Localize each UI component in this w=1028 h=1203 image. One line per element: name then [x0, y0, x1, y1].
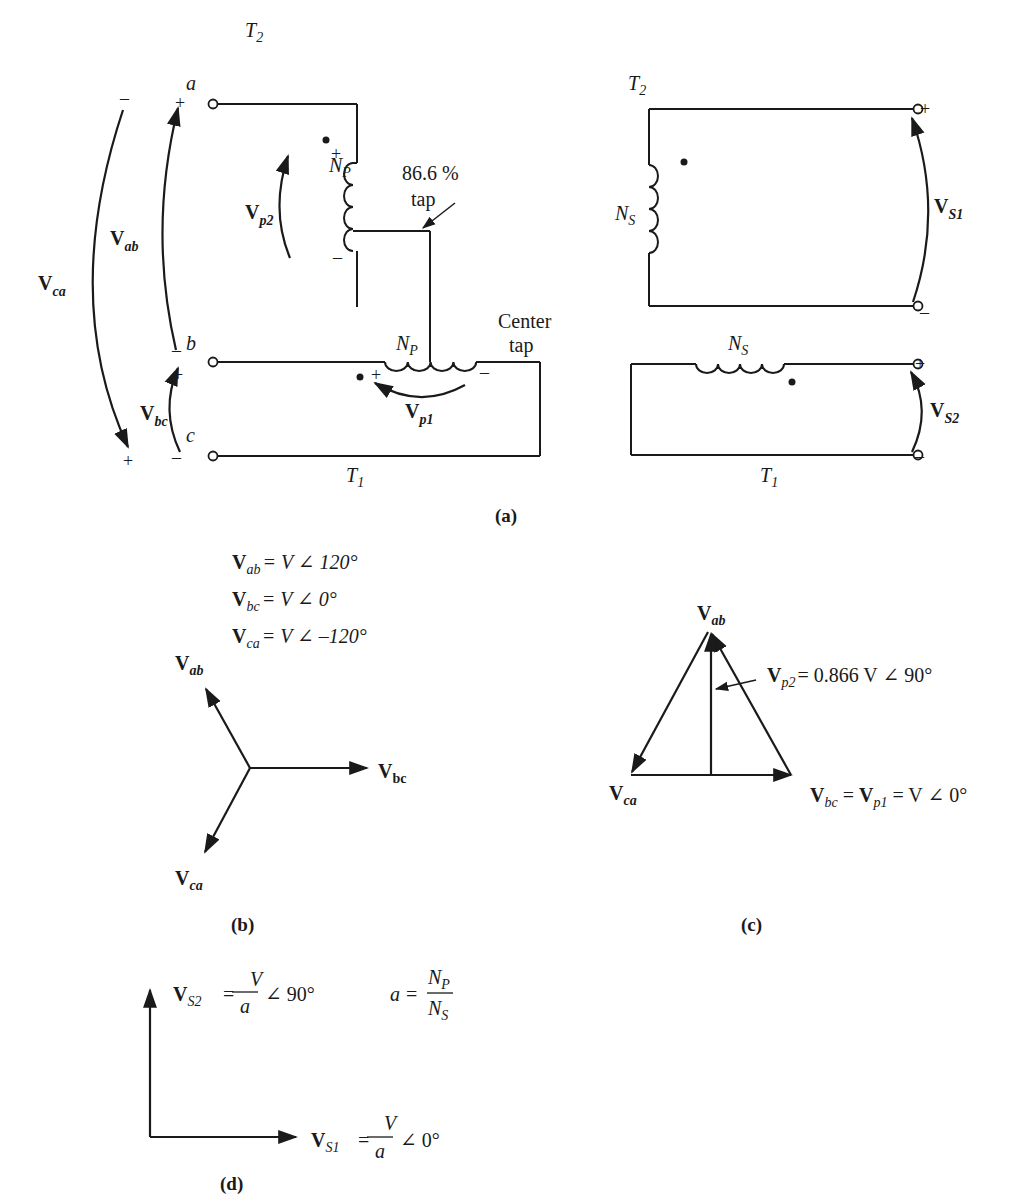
- plus-sign: +: [123, 451, 133, 471]
- fraction-numerator: V: [384, 1112, 399, 1134]
- plus-sign: +: [173, 365, 183, 385]
- vp2-pointer-arrow: [716, 680, 756, 689]
- phasor-vca: [205, 768, 250, 852]
- phasor-vab-label: Vab: [175, 652, 203, 678]
- winding-ns-top-label: NS: [614, 202, 635, 228]
- vp2-label: Vp2: [245, 201, 273, 228]
- figure-canvas: T2 a 86.6 % tap NP + – Vp2 b NP Center t…: [0, 0, 1028, 1203]
- vp2-arrow: [279, 156, 290, 258]
- phasor-vbc-label: Vbc: [378, 760, 406, 786]
- coil-np-t1: [385, 362, 476, 371]
- panel-a-right-circuit: T2 NS + – VS1 NS + – VS2 T1: [614, 72, 963, 490]
- plus-sign: +: [371, 365, 381, 385]
- phasor-vca-label: Vca: [175, 867, 203, 893]
- minus-sign: –: [119, 88, 130, 108]
- angle-value: ∠ 0°: [400, 1129, 440, 1151]
- vs2-label: VS2: [173, 983, 201, 1009]
- caption-a: (a): [495, 505, 517, 527]
- ratio-lhs: a: [390, 983, 400, 1005]
- vs1-label: VS1: [934, 195, 963, 222]
- vca-label: Vca: [609, 782, 637, 808]
- center-tap-label-line2: tap: [509, 334, 533, 357]
- plus-sign: +: [331, 144, 341, 164]
- equation-vbc: Vbc= V ∠ 0°: [232, 588, 337, 614]
- vbc-label: Vbc: [140, 402, 168, 429]
- transformer-t1-label: T1: [346, 464, 364, 490]
- angle-value: ∠ 90°: [265, 983, 315, 1005]
- phasor-vca: [632, 632, 708, 772]
- panel-d-phasors: VS2 = V a ∠ 90° a = NP NS VS1 = V a ∠ 0°: [150, 966, 453, 1162]
- panel-c-phasors: Vab Vp2= 0.866 V ∠ 90° Vca Vbc = Vp1 = V…: [609, 602, 967, 810]
- minus-sign: –: [332, 247, 343, 267]
- polarity-dot: [681, 159, 688, 166]
- ratio-denominator: NS: [427, 997, 448, 1023]
- center-tap-label-line1: Center: [498, 310, 552, 332]
- equals-sign: =: [223, 983, 234, 1005]
- minus-sign: –: [919, 302, 930, 322]
- vs2-arrow: [911, 372, 922, 452]
- plus-sign: +: [915, 354, 925, 374]
- minus-sign: –: [479, 362, 490, 382]
- fraction-numerator: V: [250, 968, 265, 990]
- terminal-b-label: b: [186, 332, 196, 354]
- apex-vab-label: Vab: [697, 602, 725, 628]
- equals-sign: =: [358, 1129, 369, 1151]
- equation-vca: Vca= V ∠ –120°: [232, 625, 367, 651]
- vs1-arrow: [912, 118, 928, 302]
- caption-b: (b): [231, 914, 254, 936]
- vp2-equation: Vp2= 0.866 V ∠ 90°: [767, 664, 932, 690]
- vbc-vp1-equation: Vbc = Vp1 = V ∠ 0°: [810, 784, 967, 810]
- terminal-a-label: a: [186, 72, 196, 94]
- plus-sign: +: [175, 93, 185, 113]
- transformer-t1-label: T1: [760, 464, 778, 490]
- panel-a-left-circuit: T2 a 86.6 % tap NP + – Vp2 b NP Center t…: [38, 19, 552, 490]
- equation-vab: Vab= V ∠ 120°: [232, 551, 358, 577]
- transformer-t2-label: T2: [628, 72, 646, 98]
- coil-ns-t1: [696, 364, 784, 373]
- vp1-label: Vp1: [405, 400, 433, 427]
- vab-label: Vab: [110, 227, 138, 254]
- vca-arrow: [93, 110, 128, 447]
- terminal-c-label: c: [186, 424, 195, 446]
- caption-c: (c): [741, 914, 762, 936]
- phasor-vab: [206, 689, 250, 768]
- panel-b-phasors: Vab= V ∠ 120° Vbc= V ∠ 0° Vca= V ∠ –120°…: [175, 551, 406, 893]
- winding-ns-bottom-label: NS: [727, 332, 748, 358]
- polarity-dot: [323, 137, 330, 144]
- polarity-dot: [357, 374, 364, 381]
- terminal-b: [209, 358, 218, 367]
- vs1-label: VS1: [311, 1129, 339, 1155]
- tap-percent-label: 86.6 %: [402, 162, 459, 184]
- minus-sign: –: [914, 446, 925, 466]
- fraction-denominator: a: [375, 1140, 385, 1162]
- vca-label: Vca: [38, 272, 66, 299]
- caption-d: (d): [220, 1173, 243, 1195]
- fraction-denominator: a: [240, 995, 250, 1017]
- vp1-arrow: [375, 383, 465, 397]
- tap-label: tap: [411, 188, 435, 211]
- polarity-dot: [789, 379, 796, 386]
- transformer-t2-label: T2: [245, 19, 263, 45]
- ratio-numerator: NP: [427, 966, 450, 992]
- coil-ns-t2: [649, 165, 658, 253]
- terminal-a: [209, 100, 218, 109]
- minus-sign: –: [171, 447, 182, 467]
- winding-np-bottom-label: NP: [395, 332, 418, 358]
- minus-sign: –: [171, 340, 182, 360]
- phasor-vab: [712, 634, 791, 775]
- terminal-c: [209, 452, 218, 461]
- equals-sign: =: [406, 983, 417, 1005]
- vs2-label: VS2: [930, 399, 959, 426]
- vab-arrow: [162, 108, 178, 350]
- plus-sign: +: [920, 99, 930, 119]
